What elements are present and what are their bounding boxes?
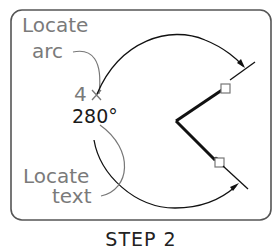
grip-box-upper-icon[interactable] xyxy=(221,84,230,93)
dimension-value: 280° xyxy=(72,105,118,127)
callout-locate-text-line2: text xyxy=(52,184,92,208)
point-label: 4 xyxy=(74,82,87,106)
callout-locate-arc-line1: Locate xyxy=(22,13,88,37)
angle-line-lower xyxy=(176,121,215,160)
figure: Locate arc 4 280° Locate text STEP 2 xyxy=(0,0,278,252)
leader-locate-text xyxy=(100,125,125,196)
grip-box-lower-icon[interactable] xyxy=(215,158,224,167)
pick-point-x-icon xyxy=(92,90,101,100)
callout-locate-arc-line2: arc xyxy=(32,39,63,63)
step-caption: STEP 2 xyxy=(105,228,176,250)
dimension-arc-lower xyxy=(94,140,236,208)
angle-line-upper xyxy=(176,90,222,121)
diagram-canvas: Locate arc 4 280° Locate text STEP 2 xyxy=(0,0,278,252)
